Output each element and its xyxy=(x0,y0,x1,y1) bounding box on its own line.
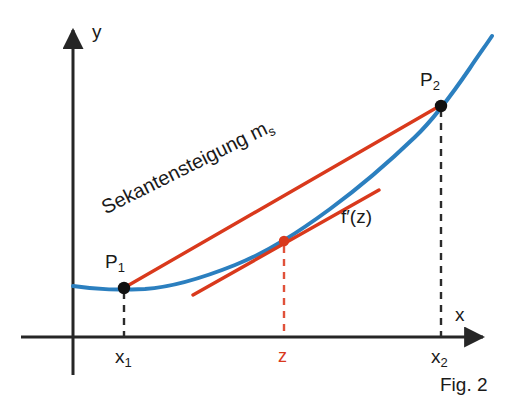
secant-line xyxy=(122,104,443,289)
tick-label-x2-sub: 2 xyxy=(441,355,448,370)
tick-label-z: z xyxy=(278,347,287,365)
point-label-p1-base: P xyxy=(105,251,118,272)
tick-label-x1-sub: 1 xyxy=(125,355,132,370)
tick-label-x1-base: x xyxy=(115,346,125,367)
point-label-p2: P2 xyxy=(420,70,440,89)
tick-label-x2: x2 xyxy=(431,347,448,366)
tick-label-x1: x1 xyxy=(115,347,132,366)
point-label-p2-sub: 2 xyxy=(433,78,440,93)
x-axis-label: x xyxy=(455,305,465,324)
tangent-slope-label: f′(z) xyxy=(341,207,372,226)
point-p2-marker xyxy=(435,100,447,112)
diagram-canvas xyxy=(0,0,525,404)
point-label-p2-base: P xyxy=(420,69,433,90)
point-label-p1: P1 xyxy=(105,252,125,271)
point-z-marker xyxy=(279,236,289,246)
tick-label-z-base: z xyxy=(278,346,287,366)
figure-caption: Fig. 2 xyxy=(440,375,488,394)
point-p1-marker xyxy=(118,282,130,294)
tick-label-x2-base: x xyxy=(431,346,441,367)
figure-container: y x P1 P2 x1 z x2 Sekantensteigung ms f′… xyxy=(0,0,525,404)
point-label-p1-sub: 1 xyxy=(118,260,125,275)
y-axis-label: y xyxy=(92,22,102,41)
